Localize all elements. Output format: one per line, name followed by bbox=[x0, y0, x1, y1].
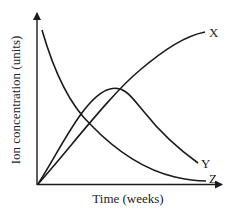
series-z-line bbox=[42, 30, 206, 181]
x-axis-title: Time (weeks) bbox=[92, 191, 163, 206]
series-y-line bbox=[38, 88, 198, 184]
series-x-label: X bbox=[209, 25, 219, 40]
series-y-label: Y bbox=[201, 156, 211, 171]
chart: X Y Z Time (weeks) Ion concentration (un… bbox=[0, 0, 233, 213]
series-x-line bbox=[38, 32, 205, 184]
y-axis-title: Ion concentration (units) bbox=[8, 36, 23, 165]
series-z-label: Z bbox=[209, 171, 217, 186]
